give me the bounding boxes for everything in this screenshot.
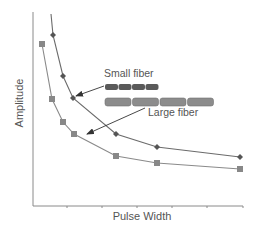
small-fiber-label: Small fiber [104, 68, 154, 79]
large-fiber-arrow [87, 108, 145, 134]
series-large-fiber [39, 41, 243, 172]
square-marker [49, 96, 55, 102]
chart-canvas [0, 0, 258, 232]
x-axis-label: Pulse Width [113, 211, 172, 222]
diamond-marker [237, 154, 243, 160]
diamond-marker [154, 144, 160, 150]
diamond-marker [60, 73, 66, 79]
axes [33, 12, 243, 208]
small-fiber-icon [105, 84, 159, 90]
large-fiber-icon [105, 98, 214, 106]
strength-duration-chart: Amplitude Pulse Width Small fiber Large … [0, 0, 258, 232]
square-marker [71, 131, 77, 137]
square-marker [39, 41, 45, 47]
small-fiber-markers [50, 32, 243, 160]
large-fiber-label: Large fiber [148, 107, 198, 118]
large-fiber-line [42, 44, 240, 169]
diamond-marker [50, 32, 56, 38]
square-marker [154, 160, 160, 166]
square-marker [113, 153, 119, 159]
small-fiber-line [51, 14, 240, 157]
small-fiber-arrow [76, 86, 104, 96]
square-marker [60, 119, 66, 125]
square-marker [237, 166, 243, 172]
y-axis-label: Amplitude [14, 79, 25, 128]
large-fiber-markers [39, 41, 243, 172]
